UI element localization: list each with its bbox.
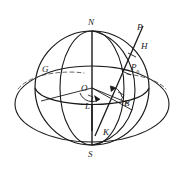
label-point-g: G: [42, 65, 49, 74]
label-center-o: O: [81, 84, 88, 93]
point-p0-tick: [124, 72, 131, 75]
label-angle-b: B: [124, 99, 130, 108]
label-south-pole: S: [88, 150, 93, 159]
label-point-p0: P0: [131, 63, 139, 74]
label-point-p0-subscript: 0: [137, 69, 140, 75]
label-point-h: H: [141, 42, 148, 51]
label-north-pole: N: [88, 18, 94, 27]
sphere-diagram: N S O L B K G P H P0: [0, 0, 184, 170]
label-point-p: P: [137, 23, 143, 32]
label-point-p0-base: P: [131, 62, 137, 72]
label-angle-l: L: [85, 102, 90, 111]
label-point-k: K: [103, 128, 109, 137]
parallel-circle-back-left-dashed: [18, 72, 84, 89]
